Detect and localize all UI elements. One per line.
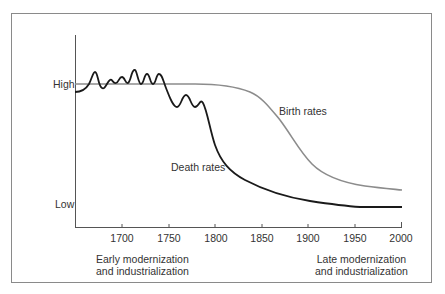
x-tick-label: 1700	[110, 232, 133, 244]
birth-rates-line	[75, 84, 402, 190]
death-rates-label: Death rates	[171, 161, 225, 173]
x-tick-label: 1950	[343, 232, 366, 244]
x-ticks	[122, 222, 402, 228]
birth-rates-label: Birth rates	[279, 105, 327, 117]
x-tick-label: 1850	[250, 232, 273, 244]
x-tick-label: 2000	[389, 232, 412, 244]
plot-area	[0, 0, 445, 294]
y-label-low: Low	[55, 198, 74, 210]
death-rates-line	[75, 70, 402, 207]
x-tick-label: 1750	[157, 232, 180, 244]
y-label-high: High	[53, 78, 75, 90]
x-tick-label: 1800	[204, 232, 227, 244]
x-tick-label: 1900	[296, 232, 319, 244]
late-modernization-note: Late modernization and industrialization	[315, 253, 408, 277]
early-modernization-note: Early modernization and industrializatio…	[96, 253, 189, 277]
